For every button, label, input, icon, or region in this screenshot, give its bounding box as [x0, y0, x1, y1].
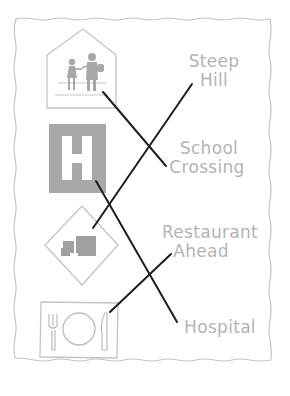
matching-worksheet: Steep Hill School Crossing Restaurant Ah… [0, 0, 290, 396]
label-line: Hill [176, 71, 252, 90]
label-line: Restaurant [150, 223, 270, 242]
label-hospital: Hospital [172, 318, 268, 337]
match-line-restaurant [110, 254, 171, 312]
label-school-crossing: School Crossing [164, 139, 254, 177]
label-line: Hospital [172, 318, 268, 337]
label-line: Crossing [160, 158, 254, 177]
label-restaurant-ahead: Restaurant Ahead [150, 223, 270, 261]
match-lines [93, 84, 192, 322]
steep-hill-sign [45, 206, 118, 285]
label-line: Steep [176, 52, 252, 71]
label-line: School [164, 139, 254, 158]
label-line: Ahead [132, 242, 270, 261]
label-steep-hill: Steep Hill [176, 52, 252, 90]
restaurant-sign [40, 302, 118, 358]
match-line-school [103, 92, 166, 166]
